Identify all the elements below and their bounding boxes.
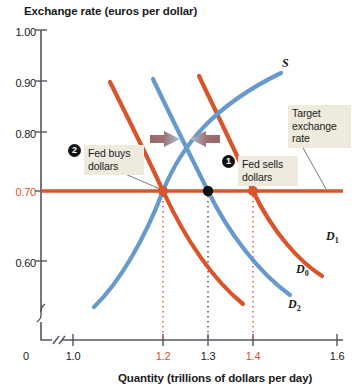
curve-label-d1: D1 xyxy=(326,229,339,245)
callout-fed-sells-line1: Fed sells xyxy=(242,158,294,171)
exchange-rate-chart: Exchange rate (euros per dollar) Quantit… xyxy=(0,0,355,391)
axis-corner xyxy=(41,322,52,340)
curve-label-d2: D2 xyxy=(288,297,301,313)
curve-label-d1-sub: 1 xyxy=(335,236,339,245)
shift-left-arrow xyxy=(150,131,180,147)
callout-fed-buys-dollars: Fed buys dollars xyxy=(84,145,144,175)
fed-buys-point-marker xyxy=(158,186,168,196)
plot-area xyxy=(0,0,355,391)
callout-target-line3: rate xyxy=(292,132,347,145)
callout-fed-buys-line1: Fed buys xyxy=(88,147,140,160)
shift-right-arrow xyxy=(190,131,220,147)
callout-fed-sells-dollars: Fed sells dollars xyxy=(238,156,298,186)
callout-fed-buys-line2: dollars xyxy=(88,160,140,173)
callout-target-line1: Target xyxy=(292,107,347,120)
x-axis-break-mark-1 xyxy=(53,336,59,344)
curve-label-d0-letter: D xyxy=(296,262,305,276)
demand-curve-d2 xyxy=(110,82,243,304)
curve-label-s: S xyxy=(282,56,289,71)
curve-label-d2-sub: 2 xyxy=(297,304,301,313)
badge-1-icon: 1 xyxy=(222,155,235,168)
curve-label-d0: D0 xyxy=(296,262,309,278)
curve-label-d1-letter: D xyxy=(326,229,335,243)
curve-label-d0-sub: 0 xyxy=(305,269,309,278)
equilibrium-point-marker xyxy=(203,186,213,196)
curve-label-d2-letter: D xyxy=(288,297,297,311)
callout-target-exchange-rate: Target exchange rate xyxy=(288,105,351,148)
fed-sells-point-marker xyxy=(248,186,258,196)
badge-2-icon: 2 xyxy=(68,144,81,157)
callout-fed-sells-line2: dollars xyxy=(242,171,294,184)
callout-target-line2: exchange xyxy=(292,120,347,133)
leader-line-target-rate xyxy=(302,146,326,189)
